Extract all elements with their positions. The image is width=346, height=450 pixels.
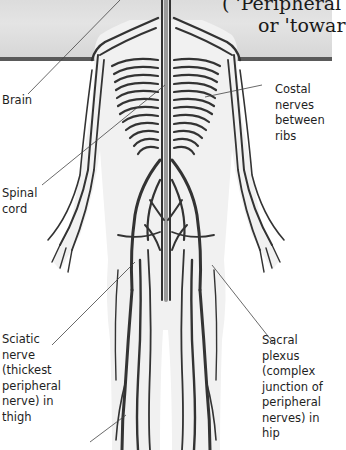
label-sacral-plexus: Sacral plexus (complex junction of perip… [262, 333, 332, 442]
label-spinal-cord: Spinal cord [2, 186, 37, 217]
nerve-network [48, 0, 284, 450]
label-brain: Brain [2, 93, 32, 109]
label-sciatic-nerve: Sciatic nerve (thickest peripheral nerve… [2, 332, 61, 425]
label-costal-nerves: Costal nerves between ribs [275, 82, 325, 144]
